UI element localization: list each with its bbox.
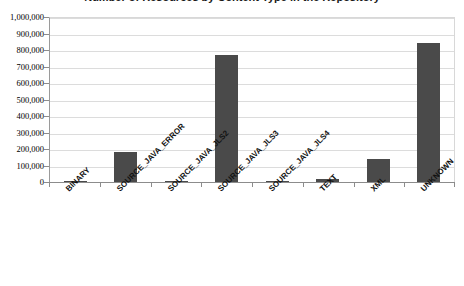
y-tick-mark bbox=[44, 133, 49, 134]
y-tick-mark bbox=[44, 67, 49, 68]
y-tick-mark bbox=[44, 83, 49, 84]
y-tick-mark bbox=[44, 100, 49, 101]
y-tick-label: 400,000 bbox=[16, 112, 44, 121]
bar-slot bbox=[303, 18, 354, 182]
y-tick-mark bbox=[44, 116, 49, 117]
y-tick-label: 500,000 bbox=[16, 95, 44, 104]
bar-slot bbox=[353, 18, 404, 182]
y-tick-label: 800,000 bbox=[16, 46, 44, 55]
bar-slot bbox=[404, 18, 455, 182]
chart-title: Number of Resources by Content Type in t… bbox=[0, 0, 464, 3]
y-tick-mark bbox=[44, 34, 49, 35]
y-tick-mark bbox=[44, 50, 49, 51]
bar[interactable] bbox=[417, 43, 440, 182]
y-tick-label: 200,000 bbox=[16, 145, 44, 154]
y-tick-mark bbox=[44, 149, 49, 150]
y-tick-label: 700,000 bbox=[16, 62, 44, 71]
y-tick-label: 300,000 bbox=[16, 128, 44, 137]
y-tick-mark bbox=[44, 17, 49, 18]
y-tick-mark bbox=[44, 182, 49, 183]
y-tick-label: 100,000 bbox=[16, 161, 44, 170]
y-tick-mark bbox=[44, 166, 49, 167]
y-tick-label: 900,000 bbox=[16, 29, 44, 38]
y-tick-label: 1,000,000 bbox=[10, 13, 44, 22]
bar-slot bbox=[50, 18, 101, 182]
x-axis: BINARYSOURCE_JAVA_ERRORSOURCE_JAVA_JLS2S… bbox=[49, 187, 455, 286]
y-axis: 0100,000200,000300,000400,000500,000600,… bbox=[0, 17, 47, 182]
bar[interactable] bbox=[215, 55, 238, 182]
bar-chart: Number of Resources by Content Type in t… bbox=[0, 0, 464, 286]
y-tick-label: 600,000 bbox=[16, 79, 44, 88]
